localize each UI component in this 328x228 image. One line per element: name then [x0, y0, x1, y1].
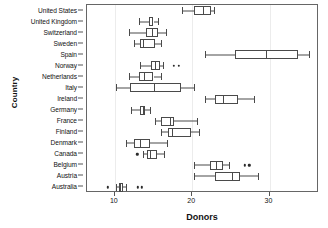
median-line	[155, 61, 156, 70]
x-tick-mark	[269, 192, 270, 196]
cap-upper	[197, 118, 198, 125]
y-tick-label: Austria	[57, 172, 77, 179]
whisker-lower	[194, 176, 214, 177]
cap-lower	[131, 107, 132, 114]
cap-upper	[161, 40, 162, 47]
plot-area	[86, 4, 318, 192]
median-line	[154, 83, 155, 92]
whisker-lower	[131, 110, 140, 111]
y-tick-mark	[78, 42, 83, 43]
outlier-point	[248, 164, 250, 166]
whisker-lower	[129, 32, 146, 33]
median-line	[150, 150, 151, 159]
y-tick-label: Denmark	[51, 139, 77, 146]
box-iqr	[215, 95, 238, 104]
outlier-point	[244, 164, 246, 166]
cap-lower	[155, 118, 156, 125]
cap-upper	[167, 140, 168, 147]
y-tick-label: Canada	[54, 150, 77, 157]
whisker-lower	[139, 21, 149, 22]
box-iqr	[134, 139, 150, 148]
y-tick-label: Switzerland	[43, 28, 77, 35]
x-tick-mark	[191, 192, 192, 196]
whisker-lower	[205, 99, 215, 100]
cap-lower	[205, 96, 206, 103]
y-tick-label: United Kingdom	[31, 17, 77, 24]
median-line	[170, 117, 171, 126]
cap-upper	[199, 129, 200, 136]
whisker-upper	[150, 143, 166, 144]
y-tick-mark	[78, 175, 83, 176]
cap-upper	[309, 51, 310, 58]
median-line	[216, 161, 217, 170]
y-tick-mark	[78, 31, 83, 32]
median-line	[140, 139, 141, 148]
y-tick-mark	[78, 9, 83, 10]
cap-upper	[161, 73, 162, 80]
y-tick-label: Germany	[50, 106, 77, 113]
whisker-upper	[238, 99, 254, 100]
median-line	[143, 106, 144, 115]
y-tick-mark	[78, 120, 83, 121]
cap-lower	[116, 84, 117, 91]
cap-upper	[163, 62, 164, 69]
median-line	[143, 39, 144, 48]
cap-upper	[254, 96, 255, 103]
whisker-lower	[140, 65, 151, 66]
y-tick-label: Spain	[60, 50, 77, 57]
y-tick-label: Netherlands	[42, 72, 77, 79]
x-tick-label: 30	[265, 197, 273, 204]
whisker-lower	[129, 76, 139, 77]
x-tick-label: 10	[110, 197, 118, 204]
cap-upper	[158, 18, 159, 25]
cap-lower	[194, 162, 195, 169]
cap-lower	[143, 151, 144, 158]
median-line	[152, 28, 153, 37]
box-iqr	[235, 50, 298, 59]
whisker-lower	[194, 165, 209, 166]
median-line	[232, 172, 233, 181]
whisker-upper	[191, 132, 200, 133]
grid-line	[270, 5, 271, 191]
cap-upper	[126, 184, 127, 191]
box-iqr	[139, 72, 154, 81]
box-iqr	[161, 117, 174, 126]
y-tick-mark	[78, 75, 83, 76]
whisker-lower	[116, 87, 129, 88]
whisker-upper	[158, 32, 166, 33]
y-tick-mark	[78, 164, 83, 165]
cap-upper	[166, 29, 167, 36]
x-tick-mark	[114, 192, 115, 196]
median-line	[152, 17, 153, 26]
cap-upper	[258, 173, 259, 180]
cap-lower	[129, 73, 130, 80]
median-line	[266, 50, 267, 59]
outlier-point	[172, 65, 174, 67]
cap-lower	[182, 7, 183, 14]
boxplot-figure: Country Donors United StatesUnited Kingd…	[0, 0, 328, 228]
whisker-upper	[154, 76, 162, 77]
cap-lower	[194, 173, 195, 180]
outlier-point	[141, 186, 143, 188]
median-line	[172, 128, 173, 137]
whisker-upper	[240, 176, 258, 177]
y-tick-label: Ireland	[57, 95, 77, 102]
y-tick-label: Norway	[55, 61, 77, 68]
cap-lower	[161, 129, 162, 136]
cap-upper	[164, 151, 165, 158]
whisker-upper	[181, 87, 195, 88]
y-tick-mark	[78, 98, 83, 99]
y-tick-mark	[78, 53, 83, 54]
x-tick-label: 20	[187, 197, 195, 204]
outlier-point	[178, 65, 180, 67]
y-tick-label: Sweden	[53, 39, 77, 46]
whisker-upper	[174, 121, 196, 122]
cap-lower	[205, 51, 206, 58]
y-tick-mark	[78, 20, 83, 21]
whisker-lower	[182, 10, 194, 11]
y-tick-mark	[78, 109, 83, 110]
y-tick-label: Australia	[52, 183, 77, 190]
y-tick-mark	[78, 186, 83, 187]
median-line	[223, 95, 224, 104]
grid-line	[115, 5, 116, 191]
